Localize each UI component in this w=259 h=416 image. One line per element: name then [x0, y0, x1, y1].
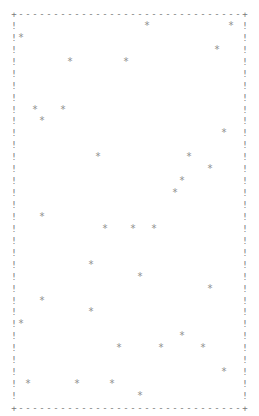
- frame-bottom-edge: -: [200, 402, 207, 414]
- frame-left-edge: !: [11, 306, 18, 318]
- frame-top-edge: -: [39, 8, 46, 20]
- frame-bottom-edge: -: [46, 402, 53, 414]
- frame-bottom-edge: -: [53, 402, 60, 414]
- frame-left-edge: !: [11, 68, 18, 80]
- data-point-marker: *: [18, 32, 25, 44]
- frame-right-edge: !: [242, 306, 249, 318]
- frame-bottom-edge: -: [81, 402, 88, 414]
- frame-right-edge: !: [242, 92, 249, 104]
- frame-top-edge: -: [193, 8, 200, 20]
- data-point-marker: *: [39, 295, 46, 307]
- data-point-marker: *: [25, 378, 32, 390]
- frame-top-edge: -: [88, 8, 95, 20]
- frame-left-edge: !: [11, 175, 18, 187]
- frame-bottom-edge: -: [60, 402, 67, 414]
- frame-top-edge: -: [95, 8, 102, 20]
- frame-right-edge: !: [242, 115, 249, 127]
- frame-right-edge: !: [242, 151, 249, 163]
- frame-bottom-edge: -: [179, 402, 186, 414]
- data-point-marker: *: [39, 211, 46, 223]
- frame-bottom-edge: -: [221, 402, 228, 414]
- data-point-marker: *: [137, 390, 144, 402]
- frame-bottom-edge: -: [158, 402, 165, 414]
- frame-right-edge: !: [242, 295, 249, 307]
- frame-top-edge: -: [207, 8, 214, 20]
- frame-right-edge: !: [242, 199, 249, 211]
- data-point-marker: *: [123, 56, 130, 68]
- frame-left-edge: !: [11, 330, 18, 342]
- frame-left-edge: !: [11, 223, 18, 235]
- frame-right-edge: !: [242, 354, 249, 366]
- frame-top-edge: -: [81, 8, 88, 20]
- frame-left-edge: !: [11, 163, 18, 175]
- frame-left-edge: !: [11, 235, 18, 247]
- frame-left-edge: !: [11, 127, 18, 139]
- data-point-marker: *: [32, 104, 39, 116]
- frame-top-edge: -: [60, 8, 67, 20]
- frame-right-edge: !: [242, 44, 249, 56]
- frame-top-edge: -: [123, 8, 130, 20]
- data-point-marker: *: [221, 127, 228, 139]
- data-point-marker: *: [179, 175, 186, 187]
- frame-left-edge: !: [11, 92, 18, 104]
- frame-bottom-edge: -: [102, 402, 109, 414]
- frame-bottom-edge: -: [25, 402, 32, 414]
- frame-right-edge: !: [242, 139, 249, 151]
- data-point-marker: *: [88, 259, 95, 271]
- data-point-marker: *: [186, 151, 193, 163]
- frame-top-edge: -: [186, 8, 193, 20]
- frame-left-edge: !: [11, 199, 18, 211]
- frame-bottom-edge: -: [144, 402, 151, 414]
- data-point-marker: *: [18, 318, 25, 330]
- frame-top-edge: -: [221, 8, 228, 20]
- data-point-marker: *: [60, 104, 67, 116]
- frame-left-edge: !: [11, 354, 18, 366]
- frame-top-edge: -: [144, 8, 151, 20]
- data-point-marker: *: [172, 187, 179, 199]
- frame-bottom-edge: -: [18, 402, 25, 414]
- frame-left-edge: !: [11, 211, 18, 223]
- frame-top-edge: -: [235, 8, 242, 20]
- frame-top-edge: -: [116, 8, 123, 20]
- frame-left-edge: !: [11, 247, 18, 259]
- data-point-marker: *: [67, 56, 74, 68]
- data-point-marker: *: [221, 366, 228, 378]
- frame-bottom-edge: -: [39, 402, 46, 414]
- frame-left-edge: !: [11, 32, 18, 44]
- frame-right-edge: !: [242, 223, 249, 235]
- frame-top-edge: -: [137, 8, 144, 20]
- frame-top-edge: -: [18, 8, 25, 20]
- frame-left-edge: !: [11, 151, 18, 163]
- frame-bottom-edge: -: [214, 402, 221, 414]
- data-point-marker: *: [214, 44, 221, 56]
- frame-right-edge: !: [242, 68, 249, 80]
- frame-right-edge: !: [242, 390, 249, 402]
- frame-left-edge: !: [11, 271, 18, 283]
- frame-top-edge: -: [53, 8, 60, 20]
- frame-corner: +: [11, 8, 18, 20]
- frame-right-edge: !: [242, 342, 249, 354]
- frame-top-edge: -: [151, 8, 158, 20]
- frame-left-edge: !: [11, 342, 18, 354]
- frame-bottom-edge: -: [165, 402, 172, 414]
- frame-left-edge: !: [11, 115, 18, 127]
- ascii-scatter-plot: ++--------------------------------------…: [0, 0, 259, 416]
- frame-top-edge: -: [200, 8, 207, 20]
- frame-right-edge: !: [242, 163, 249, 175]
- frame-top-edge: -: [25, 8, 32, 20]
- frame-left-edge: !: [11, 44, 18, 56]
- frame-left-edge: !: [11, 366, 18, 378]
- frame-top-edge: -: [67, 8, 74, 20]
- frame-right-edge: !: [242, 330, 249, 342]
- data-point-marker: *: [137, 271, 144, 283]
- frame-right-edge: !: [242, 127, 249, 139]
- frame-corner: +: [242, 402, 249, 414]
- frame-left-edge: !: [11, 318, 18, 330]
- frame-top-edge: -: [32, 8, 39, 20]
- data-point-marker: *: [88, 306, 95, 318]
- frame-bottom-edge: -: [193, 402, 200, 414]
- data-point-marker: *: [151, 223, 158, 235]
- frame-right-edge: !: [242, 247, 249, 259]
- data-point-marker: *: [158, 342, 165, 354]
- frame-top-edge: -: [74, 8, 81, 20]
